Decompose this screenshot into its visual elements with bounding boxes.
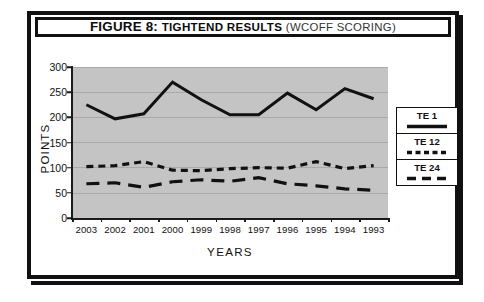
x-tick-label: 1999 [190,224,212,235]
y-tick-mark [67,217,71,219]
x-axis-line [71,218,389,220]
series-plot [72,67,388,218]
legend-item-te-1: TE 1 [397,108,457,133]
y-tick-label: 300 [49,61,67,73]
x-tick-label: 1993 [363,224,385,235]
x-tick-label: 1994 [334,224,356,235]
y-tick-label: 100 [49,162,67,174]
x-tick-mark [388,218,390,222]
x-tick-label: 2001 [133,224,155,235]
x-tick-label: 2000 [162,224,184,235]
x-tick-label: 1996 [277,224,299,235]
x-tick-mark [129,218,131,222]
x-tick-mark [273,218,275,222]
x-tick-mark [101,218,103,222]
legend-label-te-1: TE 1 [417,111,437,121]
y-axis-line [71,66,73,219]
legend-item-te-24: TE 24 [397,159,457,185]
y-tick-mark [67,91,71,93]
x-tick-mark [244,218,246,222]
legend-swatch-solid [407,123,447,130]
y-tick-label: 250 [49,86,67,98]
y-tick-label: 150 [49,137,67,149]
x-tick-mark [187,218,189,222]
y-tick-mark [67,66,71,68]
x-tick-label: 2002 [104,224,126,235]
legend-item-te-12: TE 12 [397,133,457,159]
series-line-te-1 [86,82,373,119]
y-axis-title: POINTS [38,101,51,197]
y-tick-mark [67,142,71,144]
y-tick-mark [67,192,71,194]
y-tick-label: 200 [49,111,67,123]
legend-swatch-dotted [407,149,447,156]
series-line-te-24 [86,178,373,191]
chart-legend: TE 1 TE 12 TE 24 [396,107,458,186]
y-tick-mark [67,167,71,169]
y-tick-mark [67,117,71,119]
x-axis-title: YEARS [72,245,388,258]
x-tick-label: 1995 [305,224,327,235]
x-tick-label: 1998 [219,224,241,235]
x-tick-mark [302,218,304,222]
figure-root: FIGURE 8: TIGHTEND RESULTS (WCOFF SCORIN… [0,0,484,302]
legend-label-te-12: TE 12 [414,137,440,147]
x-tick-mark [72,218,74,222]
x-tick-label: 2003 [75,224,97,235]
x-tick-mark [158,218,160,222]
x-tick-mark [359,218,361,222]
y-tick-label: 50 [55,187,67,199]
x-tick-mark [216,218,218,222]
legend-swatch-dashed [407,175,447,182]
x-tick-mark [331,218,333,222]
series-line-te-12 [86,162,373,171]
x-tick-label: 1997 [248,224,270,235]
legend-label-te-24: TE 24 [414,163,440,173]
